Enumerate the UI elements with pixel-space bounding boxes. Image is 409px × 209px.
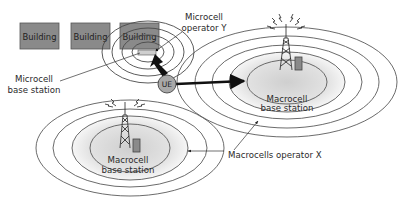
building-label: Building — [74, 32, 108, 42]
building-label: Building — [23, 32, 57, 42]
user-equipment: UE — [158, 75, 176, 93]
macrocell-left-label-line1: Macrocell — [108, 155, 149, 165]
microcell-base-station-icon — [138, 50, 156, 55]
microcell-bs-label-line1: Microcell — [15, 74, 53, 84]
cellular-network-diagram: Building Building Building UE — [0, 0, 409, 209]
building-2: Building — [71, 23, 110, 49]
microcell-operator-label-line2: operator Y — [182, 23, 228, 33]
building-1: Building — [20, 23, 59, 49]
microcell-bs-leader — [60, 53, 140, 81]
microcell-bs-label-line2: base station — [8, 85, 61, 95]
ue-label: UE — [162, 80, 173, 89]
ue-to-microcell-arrow — [150, 54, 168, 77]
microcell-operator-label-line1: Microcell — [185, 12, 223, 22]
macrocells-operator-leader-right — [234, 121, 258, 150]
macrocells-operator-label: Macrocells operator X — [228, 150, 322, 160]
building-label: Building — [123, 32, 157, 42]
macrocell-left-label-line2: base station — [102, 165, 155, 175]
microcell-operator-leader — [157, 32, 182, 50]
macrocell-right-label-line2: base station — [261, 103, 314, 113]
